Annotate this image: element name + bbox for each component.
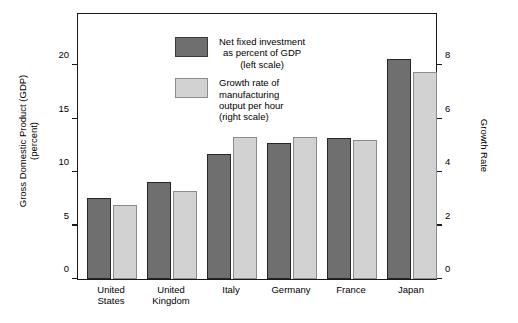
bar-group xyxy=(87,14,138,279)
legend-label-line: output per hour xyxy=(219,100,283,111)
legend-swatch-light xyxy=(175,78,208,98)
bar-growth-rate xyxy=(113,205,138,279)
chart-figure: Gross Domestic Product (GDP) (percent) G… xyxy=(0,0,518,323)
left-ticklabel-15: 15 xyxy=(58,104,69,114)
bar-group xyxy=(387,14,438,279)
right-ticklabel-0: 0 xyxy=(445,264,450,274)
right-ticklabel-2: 2 xyxy=(445,211,450,221)
left-ticklabel-0: 0 xyxy=(64,264,69,274)
legend-label-line: Net fixed investment xyxy=(219,36,305,47)
legend-label-line: Growth rate of xyxy=(219,77,283,88)
bar-group xyxy=(327,14,378,279)
left-ticklabel-20: 20 xyxy=(58,50,69,60)
left-axis-title: Gross Domestic Product (GDP) (percent) xyxy=(17,51,39,231)
right-ticklabel-8: 8 xyxy=(445,50,450,60)
bar-growth-rate xyxy=(233,137,258,279)
bar-net-fixed-investment xyxy=(147,182,172,279)
x-axis-label-line: Japan xyxy=(366,284,456,295)
chart-legend: Net fixed investment as percent of GDP (… xyxy=(175,36,305,130)
bar-growth-rate xyxy=(293,137,318,279)
left-ticklabel-10: 10 xyxy=(58,157,69,167)
bar-net-fixed-investment xyxy=(267,143,292,279)
bar-growth-rate xyxy=(173,191,198,279)
bar-growth-rate xyxy=(353,140,378,279)
legend-label-line: manufacturing xyxy=(219,89,283,100)
bar-net-fixed-investment xyxy=(87,198,112,279)
x-axis-label-line: Kingdom xyxy=(126,295,216,306)
left-axis-title-line2: (percent) xyxy=(28,51,39,231)
legend-label-net-fixed-investment: Net fixed investment as percent of GDP (… xyxy=(219,36,305,70)
right-axis-title: Growth Rate xyxy=(479,66,490,226)
legend-entry-net-fixed-investment: Net fixed investment as percent of GDP (… xyxy=(175,36,305,70)
legend-label-line: (left scale) xyxy=(219,59,305,70)
bar-net-fixed-investment xyxy=(387,59,412,279)
left-axis-title-line1: Gross Domestic Product (GDP) xyxy=(17,75,28,208)
legend-label-line: as percent of GDP xyxy=(219,47,305,58)
right-ticklabel-4: 4 xyxy=(445,157,450,167)
x-axis-label-japan: Japan xyxy=(366,284,456,295)
legend-label-line: (right scale) xyxy=(219,111,283,122)
bar-net-fixed-investment xyxy=(327,138,352,279)
plot-area: 0 5 10 15 20 0 2 4 6 8 Net fixed investm… xyxy=(77,13,437,280)
legend-entry-growth-rate: Growth rate of manufacturing output per … xyxy=(175,77,305,123)
legend-label-growth-rate: Growth rate of manufacturing output per … xyxy=(219,77,283,123)
bar-growth-rate xyxy=(413,72,438,279)
bar-net-fixed-investment xyxy=(207,154,232,279)
left-ticklabel-5: 5 xyxy=(64,211,69,221)
right-ticklabel-6: 6 xyxy=(445,104,450,114)
legend-swatch-dark xyxy=(175,37,208,57)
